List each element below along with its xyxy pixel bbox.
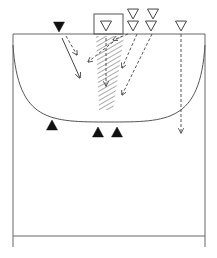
- defender-icon: [101, 21, 112, 31]
- defender-icon: [148, 9, 159, 19]
- arrow-pass6: [122, 34, 152, 95]
- defender-icon: [128, 9, 139, 19]
- attacker-icon: [47, 120, 58, 130]
- attacker-icon: [112, 127, 123, 137]
- attacker-icon: [54, 22, 65, 32]
- arrow-run1: [62, 38, 80, 78]
- attacker-icon: [93, 127, 104, 137]
- arrow-pass1: [66, 36, 77, 55]
- hatched-area: [96, 36, 124, 110]
- defender-icon: [128, 21, 139, 31]
- shaded-zone: [96, 36, 124, 110]
- arrow-pass5: [122, 34, 137, 68]
- defender-icon: [176, 21, 187, 31]
- defenders: [101, 9, 187, 31]
- handball-drill-diagram: [0, 0, 217, 258]
- defender-icon: [146, 21, 157, 31]
